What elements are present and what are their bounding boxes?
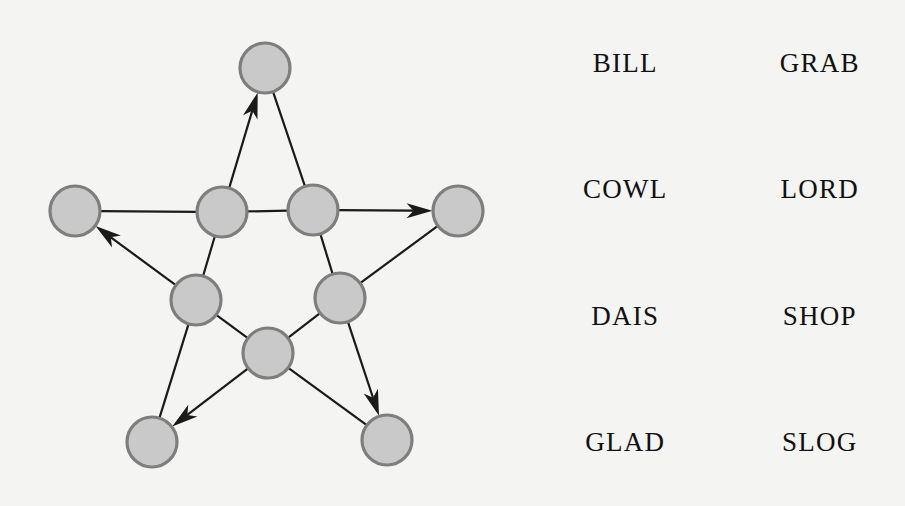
graph-line-edge bbox=[289, 368, 367, 425]
graph-canvas bbox=[0, 0, 540, 506]
graph-arrow-edge bbox=[96, 226, 176, 285]
graph-node-inner-upper-left[interactable] bbox=[197, 187, 247, 237]
edge-shaft bbox=[273, 92, 305, 186]
graph-arrow-edge bbox=[172, 369, 248, 427]
graph-line-edge bbox=[361, 226, 438, 283]
graph-arrow-edge bbox=[338, 203, 432, 218]
graph-node-outer-right[interactable] bbox=[433, 186, 483, 236]
edge-shaft bbox=[348, 322, 373, 398]
graph-node-inner-upper-right[interactable] bbox=[288, 185, 338, 235]
graph-line-edge bbox=[203, 236, 215, 275]
word-dais: DAIS bbox=[591, 303, 659, 330]
edge-shaft bbox=[160, 324, 189, 417]
graph-line-edge bbox=[320, 234, 332, 273]
arrowhead-icon bbox=[172, 405, 197, 427]
graph-node-inner-lower-left[interactable] bbox=[171, 275, 221, 325]
edge-shaft bbox=[229, 111, 252, 188]
edge-shaft bbox=[111, 237, 176, 285]
edge-shaft bbox=[217, 315, 248, 338]
graph-nodes-layer bbox=[50, 43, 483, 467]
edge-shaft bbox=[289, 368, 367, 425]
word-list-panel: BILLGRABCOWLLORDDAISSHOPGLADSLOG bbox=[540, 0, 905, 506]
graph-node-outer-top[interactable] bbox=[240, 43, 290, 93]
word-cowl: COWL bbox=[583, 176, 667, 203]
edge-shaft bbox=[247, 211, 287, 212]
arrowhead-icon bbox=[96, 226, 121, 247]
edge-shaft bbox=[320, 234, 332, 273]
graph-arrow-edge bbox=[348, 322, 379, 416]
graph-line-edge bbox=[100, 211, 196, 212]
edge-shaft bbox=[100, 211, 196, 212]
graph-arrow-edge bbox=[229, 92, 257, 187]
edge-shaft bbox=[338, 210, 413, 211]
edge-shaft bbox=[203, 236, 215, 275]
graph-line-edge bbox=[288, 313, 319, 337]
word-grab: GRAB bbox=[780, 50, 860, 77]
graph-panel bbox=[0, 0, 540, 506]
graph-node-outer-left[interactable] bbox=[50, 186, 100, 236]
graph-line-edge bbox=[247, 211, 287, 212]
graph-line-edge bbox=[217, 315, 248, 338]
word-grid: BILLGRABCOWLLORDDAISSHOPGLADSLOG bbox=[540, 0, 905, 506]
word-glad: GLAD bbox=[585, 429, 665, 456]
page-root: BILLGRABCOWLLORDDAISSHOPGLADSLOG bbox=[0, 0, 905, 506]
word-lord: LORD bbox=[781, 176, 859, 203]
word-bill: BILL bbox=[593, 50, 658, 77]
graph-node-inner-bottom[interactable] bbox=[243, 328, 293, 378]
graph-node-outer-bottom-left[interactable] bbox=[127, 417, 177, 467]
graph-node-inner-lower-right[interactable] bbox=[315, 273, 365, 323]
edge-shaft bbox=[187, 369, 247, 415]
edge-shaft bbox=[361, 226, 438, 283]
word-slog: SLOG bbox=[782, 429, 857, 456]
graph-node-outer-bottom-right[interactable] bbox=[362, 415, 412, 465]
graph-line-edge bbox=[160, 324, 189, 417]
edge-shaft bbox=[288, 313, 319, 337]
word-shop: SHOP bbox=[783, 303, 857, 330]
graph-line-edge bbox=[273, 92, 305, 186]
